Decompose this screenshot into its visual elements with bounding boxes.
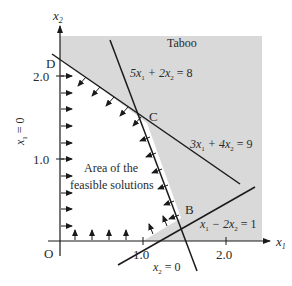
label-3x1-4x2-9: 3x1 + 4x2 = 9 [189,137,253,153]
y-tick-label-1: 1.0 [33,152,49,167]
point-label-b: B [185,202,194,217]
point-label-c: C [149,109,158,124]
x-tick-label-1: 1.0 [133,247,149,262]
origin-label: O [44,246,53,261]
taboo-label: Taboo [167,36,197,50]
x2-axis-label: x2 [52,8,63,25]
x-tick-label-2: 2.0 [216,247,232,262]
feasible-label-line2: feasible solutions [70,178,154,192]
x1-axis-label: x1 [275,234,286,251]
label-x1-0: x1 = 0 [13,117,29,146]
lp-diagram: x2 x1 O 1.0 2.0 1.0 2.0 D C B Taboo Area… [0,0,292,286]
feasible-label-line1: Area of the [84,161,138,175]
label-5x1-2x2-8: 5x1 + 2x2 = 8 [130,66,193,82]
point-label-d: D [46,56,55,71]
label-x2-0: x2 = 0 [152,260,181,276]
y-tick-label-2: 2.0 [33,69,49,84]
